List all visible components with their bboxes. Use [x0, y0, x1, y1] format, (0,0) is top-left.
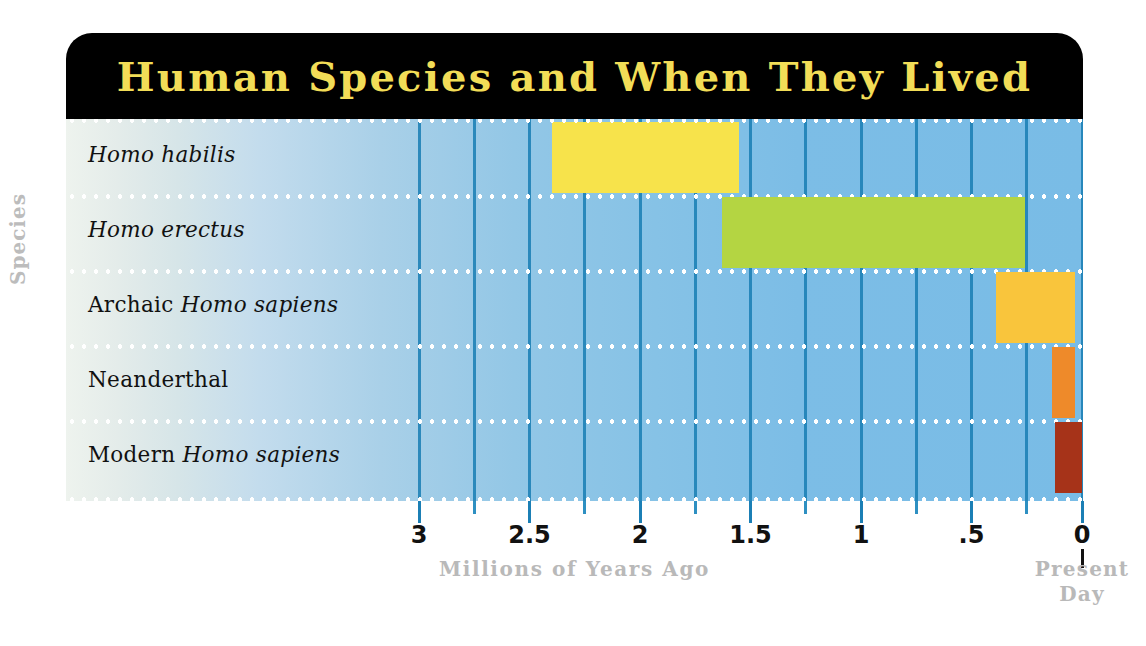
- row-label-part: Modern: [88, 442, 183, 467]
- axis-tick-label: 1.5: [721, 521, 781, 549]
- title-banner: Human Species and When They Lived: [66, 33, 1083, 119]
- axis-tick-minor: [694, 501, 697, 514]
- row-label-part: Homo erectus: [88, 217, 245, 242]
- present-day-line1: Present: [1035, 557, 1129, 581]
- row-label-part: Archaic: [88, 292, 181, 317]
- axis-tick-label: 0: [1052, 521, 1112, 549]
- axis-tick-label: 3: [389, 521, 449, 549]
- axis-tick-major: [639, 501, 642, 523]
- axis-tick-minor: [473, 501, 476, 514]
- row-label: Modern Homo sapiens: [88, 442, 340, 467]
- row-label-part: Homo sapiens: [183, 442, 341, 467]
- present-day-line2: Day: [1059, 582, 1105, 606]
- row-separator: [66, 269, 1083, 274]
- row-separator: [66, 344, 1083, 349]
- page-title: Human Species and When They Lived: [66, 33, 1083, 119]
- axis-tick-label: 2: [610, 521, 670, 549]
- y-axis-title: Species: [6, 105, 30, 285]
- row-label: Homo erectus: [88, 217, 245, 242]
- chart-figure: Human Species and When They Lived Homo h…: [0, 0, 1146, 646]
- axis-tick-major: [749, 501, 752, 523]
- row-separator: [66, 419, 1083, 424]
- axis-tick-minor: [915, 501, 918, 514]
- axis-tick-major: [1081, 501, 1084, 523]
- gridline: [473, 119, 476, 501]
- row-label: Homo habilis: [88, 142, 236, 167]
- axis-tick-minor: [583, 501, 586, 514]
- plot-panel: Homo habilisHomo erectusArchaic Homo sap…: [66, 119, 1083, 501]
- species-range-bar: [1055, 422, 1082, 493]
- row-label: Neanderthal: [88, 367, 228, 392]
- axis-tick-major: [970, 501, 973, 523]
- axis-tick-minor: [1025, 501, 1028, 514]
- row-label: Archaic Homo sapiens: [88, 292, 338, 317]
- axis-tick-label: .5: [942, 521, 1002, 549]
- gridline: [418, 119, 421, 501]
- gridline: [749, 119, 752, 501]
- axis-tick-label: 2.5: [500, 521, 560, 549]
- axis-tick-label: 1: [831, 521, 891, 549]
- gridline: [528, 119, 531, 501]
- axis-tick-major: [528, 501, 531, 523]
- gridline: [915, 119, 918, 501]
- panel-edge-dots: [66, 119, 1083, 123]
- row-label-part: Homo sapiens: [181, 292, 339, 317]
- species-range-bar: [996, 272, 1076, 343]
- axis-tick-major: [418, 501, 421, 523]
- axis-tick-minor: [804, 501, 807, 514]
- present-day-label: Present Day: [1007, 557, 1146, 607]
- row-label-part: Neanderthal: [88, 367, 228, 392]
- row-label-part: Homo habilis: [88, 142, 236, 167]
- gridline: [970, 119, 973, 501]
- x-axis: Millions of Years Ago Present Day 32.521…: [0, 501, 1146, 646]
- species-range-bar: [552, 122, 740, 193]
- gridline: [804, 119, 807, 501]
- x-axis-title: Millions of Years Ago: [66, 557, 1083, 581]
- species-range-bar: [1052, 347, 1075, 418]
- axis-tick-major: [860, 501, 863, 523]
- gridline: [860, 119, 863, 501]
- species-range-bar: [722, 197, 1025, 268]
